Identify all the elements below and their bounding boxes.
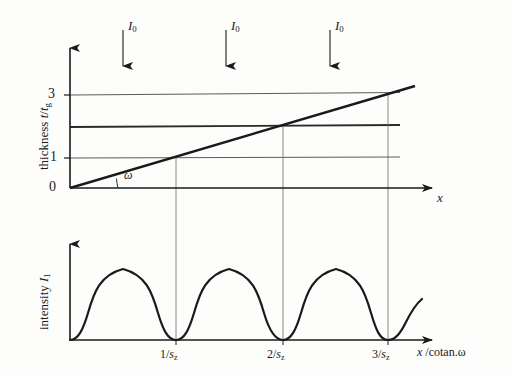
top-y-axis-title-var: t: [36, 115, 51, 119]
bottom-x-axis-title: x /cotan.ω: [417, 345, 466, 360]
incident-beam-label-3: I0: [335, 18, 344, 34]
bottom-y-axis-title-prefix: intensity: [36, 282, 51, 330]
top-x-axis-title: x: [437, 190, 443, 206]
bottom-x-tick-label-1: 1/sz: [160, 347, 178, 362]
intensity-oscillation-curve: [70, 269, 422, 340]
top-y-axis-title-sub: g: [42, 103, 52, 107]
top-y-tick-label-0: 0: [49, 179, 56, 195]
figure-canvas: [0, 0, 512, 376]
thickness-reference-line-2: [70, 125, 400, 127]
bottom-y-axis-title-sub: 1: [42, 273, 52, 277]
bottom-y-axis-title-var: I: [36, 278, 51, 282]
incident-beam-label-2: I0: [231, 18, 240, 34]
top-y-tick-label-1: 1: [50, 149, 57, 165]
thickness-reference-line-1: [70, 157, 400, 158]
top-y-axis-title-slash: /: [36, 111, 51, 115]
incident-beam-label-1: I0: [128, 18, 137, 34]
omega-angle-label: ω: [124, 168, 132, 183]
bottom-x-tick-label-2: 2/sz: [267, 347, 285, 362]
wedge-thickness-line: [70, 86, 415, 188]
thickness-intensity-figure: thickness t/tg 3 1 0 I0 I0 I0 ω x intens…: [0, 0, 512, 376]
bottom-x-tick-label-3: 3/sz: [372, 347, 390, 362]
drop-lines: [176, 93, 388, 341]
top-y-axis-title-var2: t: [36, 107, 51, 111]
top-y-axis-title-prefix: thickness: [36, 118, 51, 170]
thickness-reference-line-3: [70, 93, 400, 96]
bottom-y-axis-title: intensity I1: [36, 273, 52, 330]
top-y-tick-label-3: 3: [48, 86, 55, 102]
incident-beam-arrows: [123, 30, 330, 66]
omega-angle-arc: [117, 179, 119, 189]
